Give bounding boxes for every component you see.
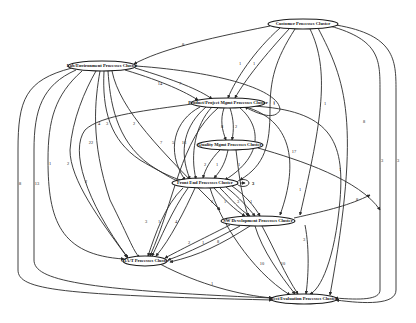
- edge: [235, 28, 290, 98]
- node-label: Test/Evaluation Processes Cluster: [271, 296, 337, 301]
- edge-weight-label: 1: [216, 162, 218, 167]
- edge: [305, 225, 308, 294]
- node-quality: Quality Mgmt Processes Cluster: [197, 140, 263, 150]
- edge-weight-label: 2: [204, 162, 206, 167]
- edge-weight-label: 4: [98, 121, 101, 126]
- edge-weight-label: 8: [221, 124, 224, 129]
- nodes-layer: Customer Processes ClusterLab/Environmen…: [67, 19, 338, 304]
- edge-weight-label: 1: [238, 162, 240, 167]
- node-frontend: Front End Processes Cluster: [172, 178, 238, 188]
- edge-weight-label: 3: [397, 158, 400, 163]
- node-label: SW Development Processes Cluster: [223, 218, 292, 223]
- edge-weight-label: 22: [89, 140, 93, 145]
- node-label: Quality Mgmt Processes Cluster: [198, 142, 261, 147]
- edge-weight-label: 8: [356, 197, 359, 202]
- edge-weight-label: 13: [35, 181, 40, 186]
- node-label: Front End Processes Cluster: [177, 180, 233, 185]
- edge-weight-label: 3: [237, 199, 240, 204]
- node-swdev: SW Development Processes Cluster: [221, 216, 295, 226]
- edge: [210, 188, 290, 295]
- edge-weight-label: 1: [211, 281, 213, 286]
- edge-weight-label: 1: [250, 199, 252, 204]
- edge-weight-label: 3: [106, 121, 109, 126]
- edge-weight-label: 17: [292, 149, 297, 154]
- edge: [294, 195, 370, 218]
- edge: [170, 226, 250, 262]
- edge-weight-label: 1: [49, 161, 51, 166]
- node-label: Product/Project Mgmt Processes Cluster: [188, 100, 268, 105]
- edge-weight-label: 10: [281, 261, 286, 266]
- edge-weight-label: 1: [273, 100, 275, 105]
- edge-weight-label: 1: [224, 199, 226, 204]
- edge-weight-label: 8: [19, 181, 22, 186]
- node-customer: Customer Processes Cluster: [268, 19, 338, 29]
- edge: [258, 148, 380, 210]
- edge: [230, 108, 233, 140]
- edge: [300, 29, 321, 215]
- edge-weight-label: 3: [303, 237, 306, 242]
- edge: [96, 71, 140, 257]
- edge-weight-label: 2: [188, 240, 190, 245]
- edge: [246, 107, 290, 215]
- edge: [336, 25, 396, 303]
- edge-weight-label: 8: [363, 119, 366, 124]
- edge-weight-label: 2: [133, 121, 135, 126]
- edge-weight-label: 16: [182, 140, 187, 145]
- node-label: Customer Processes Cluster: [276, 21, 331, 26]
- self-loop-label: 3: [252, 181, 255, 186]
- edge-weight-label: 1: [339, 167, 341, 172]
- node-test: Test/Evaluation Processes Cluster: [271, 294, 337, 304]
- node-product: Product/Project Mgmt Processes Cluster: [188, 98, 268, 108]
- edge: [330, 26, 380, 299]
- edge: [112, 71, 220, 210]
- edge: [48, 71, 124, 259]
- edge: [135, 68, 212, 99]
- edge-weight-label: 8: [182, 42, 185, 47]
- edge-weight-label: 1: [253, 61, 255, 66]
- edge: [148, 188, 183, 256]
- process-cluster-graph: 8111183314712224328131275168281712111313…: [0, 0, 416, 323]
- edge-weight-label: 14: [158, 81, 163, 86]
- edge-weight-label: 10: [260, 261, 265, 266]
- edge: [136, 66, 280, 116]
- node-label: Lab/Environment Processes Cluster: [67, 63, 138, 68]
- edge: [252, 106, 341, 294]
- node-label: CIA/T Processes Cluster: [121, 258, 169, 263]
- edge: [262, 226, 298, 294]
- edge: [134, 26, 270, 64]
- edge-weight-label: 2: [85, 179, 87, 184]
- edge-weight-label: 8: [217, 239, 220, 244]
- edge-weight-label: 1: [324, 101, 326, 106]
- edge-weight-label: 1: [239, 61, 241, 66]
- edge-weight-label: 1: [158, 219, 160, 224]
- node-ciat: CIA/T Processes Cluster: [121, 256, 169, 266]
- edge: [108, 71, 180, 182]
- edge: [70, 71, 127, 257]
- edge-weight-label: 7: [160, 140, 163, 145]
- node-lab: Lab/Environment Processes Cluster: [67, 61, 138, 71]
- edge-weight-label: 3: [381, 158, 384, 163]
- edge-weight-label: 2: [67, 161, 69, 166]
- edge-weight-label: 1: [299, 187, 301, 192]
- edge-weight-label: 2: [235, 124, 237, 129]
- edge: [318, 28, 347, 295]
- edge: [165, 225, 230, 258]
- edge-weight-label: 1: [202, 240, 204, 245]
- edge-weight-label: 3: [145, 219, 148, 224]
